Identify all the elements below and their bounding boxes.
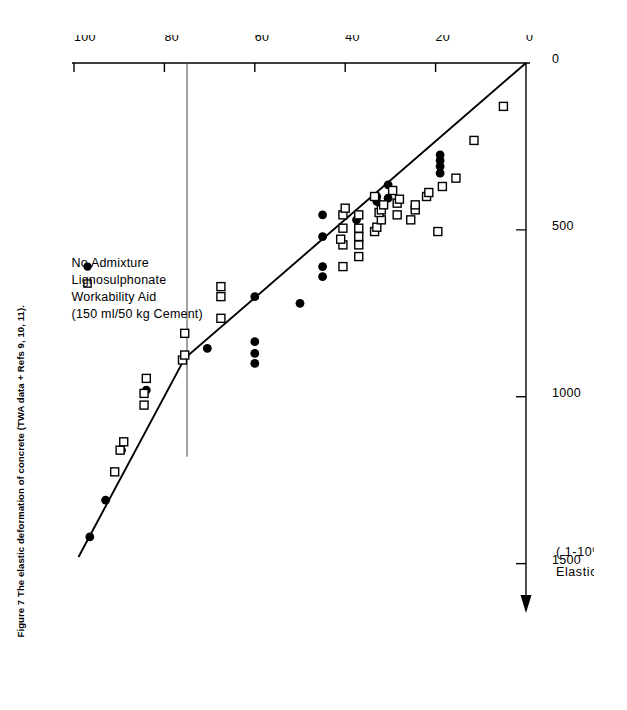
data-point-open-square (355, 224, 363, 232)
y-tick-label-20: 20 (436, 35, 451, 44)
data-point-filled-circle (250, 359, 259, 368)
series-lignosulphonate (111, 102, 508, 475)
data-point-open-square (395, 195, 403, 203)
data-point-open-square (355, 233, 363, 241)
data-point-open-square (371, 193, 379, 201)
y-tick-label-0: 0 (526, 35, 533, 44)
data-point-open-square (425, 188, 433, 196)
data-point-open-square (452, 174, 460, 182)
data-point-open-square (217, 283, 225, 291)
data-point-filled-circle (318, 262, 327, 271)
data-point-open-square (181, 351, 189, 359)
data-point-open-square (355, 211, 363, 219)
data-point-open-square (111, 468, 119, 476)
data-point-filled-circle (250, 292, 259, 301)
x-axis-arrow-icon (521, 595, 532, 613)
y-tick-label-80: 80 (164, 35, 179, 44)
data-point-open-square (355, 241, 363, 249)
data-point-filled-circle (436, 150, 445, 159)
data-point-open-square (380, 201, 388, 209)
figure-plot-area: 020406080100Stress / Strength Ratio05001… (0, 0, 627, 710)
data-point-open-square (341, 204, 349, 212)
x-tick-label-0: 0 (552, 52, 559, 66)
data-point-open-square (120, 438, 128, 446)
data-point-filled-circle (318, 210, 327, 219)
data-point-open-square (116, 446, 124, 454)
data-point-filled-circle (318, 272, 327, 281)
data-point-open-square (181, 329, 189, 337)
legend-label-0: No Admixture (72, 256, 149, 270)
legend-label-1: Lignosulphonate (72, 273, 167, 287)
data-point-open-square (389, 186, 397, 194)
data-point-open-square (411, 201, 419, 209)
x-axis-title-line1: Elastic Strain (556, 565, 594, 579)
y-tick-label-40: 40 (345, 35, 360, 44)
data-point-filled-circle (101, 496, 110, 505)
data-point-open-square (337, 235, 345, 243)
data-point-filled-circle (203, 344, 212, 353)
data-point-filled-circle (318, 232, 327, 241)
x-tick-label-1000: 1000 (552, 386, 581, 400)
data-point-open-square (339, 263, 347, 271)
data-point-open-square (434, 228, 442, 236)
legend-label-2: Workability Aid (72, 290, 157, 304)
data-point-filled-circle (85, 533, 94, 542)
data-point-open-square (140, 401, 148, 409)
x-tick-label-500: 500 (552, 219, 574, 233)
data-point-open-square (355, 253, 363, 261)
legend-label-3: (150 ml/50 kg Cement) (72, 307, 203, 321)
data-point-open-square (499, 102, 507, 110)
data-point-open-square (470, 136, 478, 144)
data-point-open-square (142, 374, 150, 382)
data-point-filled-circle (250, 349, 259, 358)
series-no-admixture (85, 150, 444, 541)
data-point-open-square (393, 211, 401, 219)
data-point-open-square (217, 314, 225, 322)
data-point-open-square (407, 216, 415, 224)
y-tick-label-100: 100 (74, 35, 96, 44)
data-point-open-square (217, 293, 225, 301)
data-point-open-square (438, 182, 446, 190)
data-point-filled-circle (250, 337, 259, 346)
y-tick-label-60: 60 (255, 35, 270, 44)
data-point-open-square (140, 389, 148, 397)
data-point-filled-circle (296, 299, 305, 308)
chart-svg: 020406080100Stress / Strength Ratio05001… (34, 35, 594, 675)
data-point-open-square (339, 224, 347, 232)
x-axis-title-line2: ( 1-106 ) (556, 545, 594, 559)
scatter-plot: 020406080100Stress / Strength Ratio05001… (34, 35, 594, 675)
